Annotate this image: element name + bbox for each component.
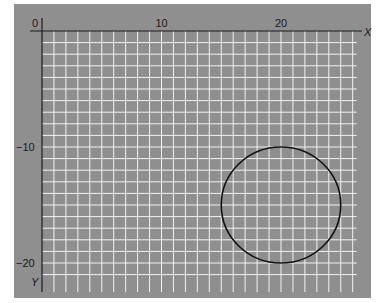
y-tick-label: −20 <box>16 257 35 269</box>
tick-labels: 01020−10−20 <box>16 17 287 269</box>
y-tick-label: −10 <box>16 141 35 153</box>
x-axis-label: X <box>363 26 372 38</box>
y-axis-label: Y <box>31 276 39 288</box>
grid-lines <box>42 31 357 292</box>
x-tick-label: 20 <box>275 17 287 29</box>
coordinate-grid-diagram: X Y 01020−10−20 <box>0 0 383 303</box>
x-tick-label: 10 <box>156 17 168 29</box>
x-tick-label: 0 <box>32 17 38 29</box>
